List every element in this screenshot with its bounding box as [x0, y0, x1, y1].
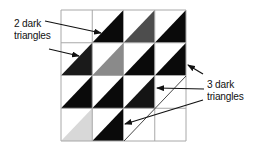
- label-2-dark-triangles: 2 dark triangles: [14, 17, 51, 41]
- label-right-line1: 3 dark: [207, 78, 244, 90]
- triangle-r4-c1: [61, 108, 92, 141]
- triangle-grid-diagram: 2 dark triangles 3 dark triangles: [0, 0, 257, 154]
- triangle-r1-c3: [124, 10, 155, 43]
- triangle-r3-c3: [124, 76, 155, 109]
- triangle-r2-c3: [124, 43, 155, 76]
- arrow-right-top-icon: [188, 65, 203, 74]
- triangle-r3-c2: [92, 76, 123, 109]
- triangle-r1-c2: [92, 10, 123, 43]
- label-3-dark-triangles: 3 dark triangles: [207, 78, 244, 102]
- arrow-left-bottom-icon: [49, 49, 79, 56]
- triangle-r3-c1: [61, 76, 92, 109]
- label-left-line2: triangles: [14, 29, 51, 41]
- triangle-r1-c4: [155, 10, 186, 43]
- label-left-line1: 2 dark: [14, 17, 51, 29]
- label-right-line2: triangles: [207, 90, 244, 102]
- triangle-r2-c4: [155, 43, 186, 76]
- arrow-right-middle-icon: [157, 88, 204, 89]
- triangle-r2-c1: [61, 43, 92, 76]
- triangle-r4-c2: [92, 108, 123, 141]
- triangle-r2-c2: [92, 43, 123, 76]
